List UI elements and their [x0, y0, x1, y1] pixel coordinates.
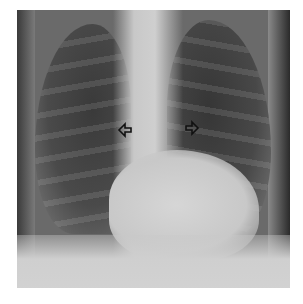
diaphragm [17, 235, 290, 288]
chest-xray-image [17, 10, 290, 288]
arrow-left-icon [117, 122, 133, 138]
arrow-right-icon [184, 120, 200, 136]
